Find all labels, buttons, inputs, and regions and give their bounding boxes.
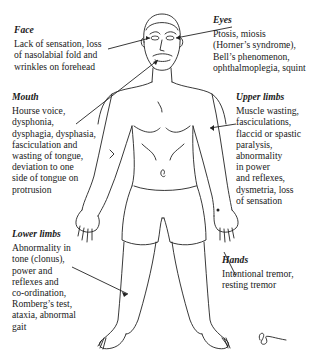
legs-drawing bbox=[98, 242, 230, 349]
annotation-title: Upper limbs bbox=[236, 91, 301, 102]
leader-lower-limbs bbox=[72, 267, 128, 294]
annotation-title: Face bbox=[14, 24, 101, 35]
annotation-mouth: Mouth Hourse voice, dysphonia, dysphagia… bbox=[12, 91, 96, 195]
annotation-eyes: Eyes Ptosis, miosis (Horner’s syndrome),… bbox=[213, 14, 306, 73]
annotation-body: Ptosis, miosis (Horner’s syndrome), Bell… bbox=[213, 28, 306, 73]
annotation-body: Abnormality in tone (clonus), power and … bbox=[12, 242, 76, 332]
annotation-face: Face Lack of sensation, loss of nasolabi… bbox=[14, 24, 101, 72]
annotation-body: Intentional tremor, resting tremor bbox=[222, 268, 294, 290]
annotation-title: Eyes bbox=[213, 14, 306, 25]
annotation-lower-limbs: Lower limbs Abnormality in tone (clonus)… bbox=[12, 228, 76, 332]
annotation-hands: Hands Intentional tremor, resting tremor bbox=[222, 254, 294, 291]
diagram-canvas: Face Lack of sensation, loss of nasolabi… bbox=[0, 0, 313, 363]
head-drawing bbox=[141, 14, 183, 82]
annotation-body: Hourse voice, dysphonia, dysphagia, dysp… bbox=[12, 105, 96, 195]
annotation-body: Lack of sensation, loss of nasolabial fo… bbox=[14, 38, 101, 72]
annotation-body: Muscle wasting, fasciculations, flaccid … bbox=[236, 105, 301, 206]
signature-mark bbox=[259, 333, 286, 344]
annotation-title: Hands bbox=[222, 254, 294, 265]
annotation-title: Lower limbs bbox=[12, 228, 76, 239]
shorts-drawing bbox=[122, 186, 206, 245]
annotation-title: Mouth bbox=[12, 91, 96, 102]
arms-drawing bbox=[76, 94, 238, 242]
annotation-upper-limbs: Upper limbs Muscle wasting, fasciculatio… bbox=[236, 91, 301, 206]
